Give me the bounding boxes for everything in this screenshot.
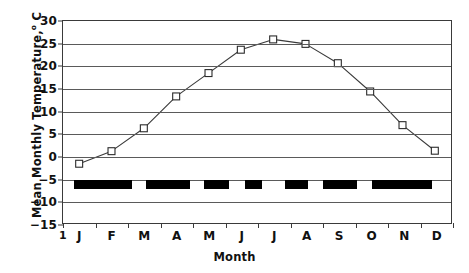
data-point-marker: [108, 148, 115, 155]
y-tick-label: 20: [40, 59, 57, 73]
data-point-marker: [399, 122, 406, 129]
annotation-bar: [204, 180, 230, 189]
x-tick-label: F: [108, 229, 116, 243]
y-gridline: [63, 112, 451, 113]
y-gridline: [63, 89, 451, 90]
x-tick-mark: [258, 223, 259, 228]
x-tick-label: D: [432, 229, 442, 243]
x-axis-origin-label: 1: [59, 229, 67, 242]
annotation-bar: [323, 180, 357, 189]
y-gridline: [63, 134, 451, 135]
annotation-bar: [372, 180, 431, 189]
data-point-marker: [205, 70, 212, 77]
x-tick-label: A: [172, 229, 182, 243]
x-tick-mark: [323, 223, 324, 228]
x-tick-label: M: [203, 229, 215, 243]
degree-symbol: o: [29, 25, 38, 30]
x-tick-mark: [356, 223, 357, 228]
x-tick-mark: [96, 223, 97, 228]
y-tick-label: 25: [40, 37, 57, 51]
x-tick-label: J: [272, 229, 277, 243]
y-tick-mark: [58, 89, 63, 90]
x-tick-mark: [453, 223, 454, 228]
x-tick-label: N: [399, 229, 409, 243]
x-axis-title: Month: [0, 250, 469, 264]
y-tick-mark: [58, 66, 63, 67]
series-line: [79, 39, 435, 163]
plot-area: 302520151050−5−10−151JFMAMJJASOND: [62, 20, 452, 224]
y-tick-mark: [58, 179, 63, 180]
x-tick-mark: [63, 223, 64, 228]
y-tick-label: 10: [40, 105, 57, 119]
y-tick-mark: [58, 111, 63, 112]
x-tick-label: J: [239, 229, 244, 243]
series-overlay: [63, 21, 451, 223]
y-tick-mark: [58, 157, 63, 158]
data-point-marker: [237, 46, 244, 53]
y-tick-mark: [58, 43, 63, 44]
data-point-marker: [270, 36, 277, 43]
annotation-bar: [74, 180, 132, 189]
y-axis-title-text: Mean Monthly Temperature,: [30, 30, 44, 218]
data-point-marker: [173, 93, 180, 100]
x-tick-mark: [128, 223, 129, 228]
x-tick-label: J: [77, 229, 82, 243]
y-tick-mark: [58, 134, 63, 135]
y-gridline: [63, 44, 451, 45]
annotation-bar: [285, 180, 309, 189]
x-tick-mark: [226, 223, 227, 228]
y-tick-label: 0: [48, 150, 57, 164]
x-tick-label: M: [138, 229, 150, 243]
y-tick-label: −5: [38, 173, 57, 187]
x-tick-mark: [193, 223, 194, 228]
x-tick-label: S: [335, 229, 344, 243]
y-gridline: [63, 66, 451, 67]
x-tick-label: A: [302, 229, 312, 243]
y-gridline: [63, 157, 451, 158]
x-tick-mark: [291, 223, 292, 228]
y-tick-label: 15: [40, 82, 57, 96]
x-tick-mark: [388, 223, 389, 228]
x-tick-mark: [161, 223, 162, 228]
y-gridline: [63, 202, 451, 203]
y-tick-mark: [58, 202, 63, 203]
y-tick-label: 5: [48, 127, 57, 141]
temperature-chart: Mean Monthly Temperature,o C 30252015105…: [0, 0, 469, 273]
x-tick-label: O: [367, 229, 377, 243]
data-point-marker: [76, 160, 83, 167]
annotation-bar: [146, 180, 190, 189]
y-tick-label: 30: [40, 14, 57, 28]
annotation-bar: [245, 180, 262, 189]
y-tick-label: −10: [30, 195, 57, 209]
data-point-marker: [431, 147, 438, 154]
x-tick-mark: [421, 223, 422, 228]
data-point-marker: [140, 125, 147, 132]
y-tick-label: −15: [30, 218, 57, 232]
y-tick-mark: [58, 21, 63, 22]
